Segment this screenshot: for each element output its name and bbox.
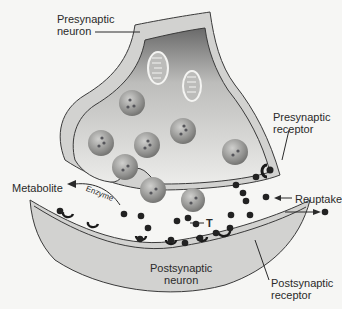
label-presynaptic-neuron: Presynapticneuron	[57, 13, 114, 37]
label-metabolite: Metabolite	[12, 182, 63, 194]
label-transmitter: T	[206, 217, 213, 229]
label-presynaptic-receptor: Presynapticreceptor	[273, 111, 330, 135]
mitochondrion	[183, 71, 201, 101]
mitochondrion	[148, 52, 168, 84]
label-postsynaptic-neuron: Postsynapticneuron	[150, 262, 212, 286]
label-postsynaptic-receptor: Postsynapticreceptor	[271, 277, 333, 301]
label-reuptake: Reuptake	[295, 193, 342, 205]
